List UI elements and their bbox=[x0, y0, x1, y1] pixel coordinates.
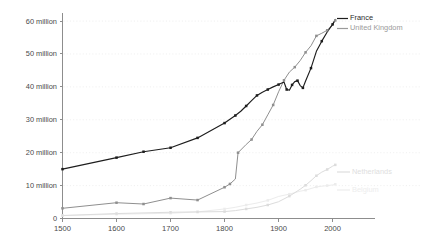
marker-france bbox=[277, 83, 280, 86]
marker-uk bbox=[223, 186, 226, 189]
series-line-france bbox=[63, 19, 336, 169]
series-group bbox=[63, 19, 336, 215]
legend-label-uk: United Kingdom bbox=[350, 23, 403, 32]
marker-netherlands bbox=[245, 208, 248, 211]
marker-uk bbox=[326, 29, 329, 32]
inline-series-labels: NetherlandsBelgium bbox=[337, 167, 392, 194]
inline-label-netherlands: Netherlands bbox=[352, 167, 392, 176]
y-tick-label-60: 60 million bbox=[26, 17, 57, 26]
marker-netherlands bbox=[334, 164, 337, 167]
marker-netherlands bbox=[288, 195, 291, 198]
y-tick-label-50: 50 million bbox=[26, 49, 57, 58]
marker-uk bbox=[61, 207, 64, 210]
marker-belgium bbox=[326, 184, 329, 187]
marker-belgium bbox=[223, 208, 226, 211]
marker-uk bbox=[272, 104, 275, 107]
marker-france bbox=[196, 137, 199, 140]
marker-uk bbox=[237, 151, 240, 154]
marker-uk bbox=[229, 183, 232, 186]
marker-france bbox=[115, 156, 118, 159]
marker-netherlands bbox=[304, 184, 307, 187]
marker-uk bbox=[261, 123, 264, 126]
marker-belgium bbox=[304, 189, 307, 192]
x-tick-label-1500: 1500 bbox=[54, 224, 71, 233]
marker-belgium bbox=[245, 204, 248, 207]
x-tick-label-1800: 1800 bbox=[216, 224, 233, 233]
marker-uk bbox=[315, 35, 318, 38]
marker-netherlands bbox=[326, 168, 329, 171]
marker-france bbox=[296, 79, 299, 82]
x-tick-label-1600: 1600 bbox=[108, 224, 125, 233]
marker-uk bbox=[304, 51, 307, 54]
marker-netherlands bbox=[115, 212, 118, 215]
marker-netherlands bbox=[169, 211, 172, 214]
x-tick-label-1700: 1700 bbox=[162, 224, 179, 233]
x-tick-label-2000: 2000 bbox=[324, 224, 341, 233]
marker-netherlands bbox=[315, 174, 318, 177]
y-axis-tick-group: 010 million20 million30 million40 millio… bbox=[26, 17, 63, 223]
marker-france bbox=[321, 40, 324, 43]
marker-belgium bbox=[267, 199, 270, 202]
chart-canvas: 010 million20 million30 million40 millio… bbox=[0, 0, 422, 251]
marker-belgium bbox=[334, 183, 337, 186]
marker-uk bbox=[142, 203, 145, 206]
marker-netherlands bbox=[267, 204, 270, 207]
marker-belgium bbox=[315, 186, 318, 189]
y-tick-label-0: 0 bbox=[53, 214, 57, 223]
marker-netherlands bbox=[196, 211, 199, 214]
marker-uk bbox=[294, 66, 297, 69]
marker-france bbox=[302, 87, 305, 90]
marker-france bbox=[310, 67, 313, 70]
legend-label-france: France bbox=[350, 13, 373, 22]
marker-france bbox=[61, 168, 64, 171]
marker-france bbox=[267, 88, 270, 91]
marker-france bbox=[331, 23, 334, 26]
inline-label-belgium: Belgium bbox=[352, 185, 379, 194]
y-tick-label-10: 10 million bbox=[26, 181, 57, 190]
marker-uk bbox=[169, 197, 172, 200]
marker-france bbox=[234, 114, 237, 117]
marker-uk bbox=[250, 138, 253, 141]
marker-netherlands bbox=[61, 214, 64, 217]
marker-uk bbox=[115, 201, 118, 204]
marker-france bbox=[223, 122, 226, 125]
series-line-uk bbox=[63, 20, 336, 208]
series-line-netherlands bbox=[63, 165, 336, 216]
marker-france bbox=[291, 84, 294, 87]
marker-france bbox=[169, 147, 172, 150]
marker-france bbox=[245, 105, 248, 108]
y-tick-label-40: 40 million bbox=[26, 82, 57, 91]
marker-netherlands bbox=[223, 210, 226, 213]
marker-uk bbox=[334, 19, 337, 22]
population-line-chart: 010 million20 million30 million40 millio… bbox=[0, 0, 422, 251]
gridline-group bbox=[64, 21, 421, 186]
y-tick-label-20: 20 million bbox=[26, 148, 57, 157]
y-tick-label-30: 30 million bbox=[26, 115, 57, 124]
marker-uk bbox=[283, 79, 286, 82]
x-axis-tick-group: 150016001700180019002000 bbox=[54, 219, 341, 233]
marker-france bbox=[142, 150, 145, 153]
marker-uk bbox=[196, 199, 199, 202]
series-marker-group bbox=[61, 19, 336, 217]
legend: FranceUnited Kingdom bbox=[337, 13, 403, 32]
marker-france bbox=[256, 94, 259, 97]
x-tick-label-1900: 1900 bbox=[270, 224, 287, 233]
marker-france bbox=[285, 88, 288, 91]
